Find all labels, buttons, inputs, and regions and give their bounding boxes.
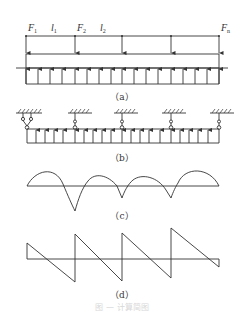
beam [26,54,219,68]
label-l2: l2 [100,22,106,34]
label-f2: F2 [76,22,86,34]
shear-sawtooth [27,228,219,282]
panel-b: （b） [16,109,234,163]
figure-canvas: F1 l1 F2 l2 Fn （a） [0,0,251,311]
distributed-reaction [27,129,219,143]
label-l1: l1 [51,22,57,34]
label-fn: Fn [220,22,230,34]
caption-c: （c） [110,211,133,221]
panel-a: F1 l1 F2 l2 Fn （a） [16,22,230,102]
caption-d: （d） [110,290,134,300]
concentrated-loads [25,35,220,53]
support-5 [210,109,234,129]
support-3 [114,109,138,129]
support-4 [162,109,186,129]
moment-curve [27,171,219,211]
panel-c: （c） [27,171,219,221]
support-2 [68,109,92,129]
support-1 [16,109,42,129]
label-f1: F1 [27,22,37,34]
caption-b: （b） [110,153,134,163]
panel-d: （d） [27,228,219,300]
distributed-reaction [26,68,219,84]
figure-caption: 图 — 计算简图 [95,302,148,311]
caption-a: （a） [110,92,133,102]
